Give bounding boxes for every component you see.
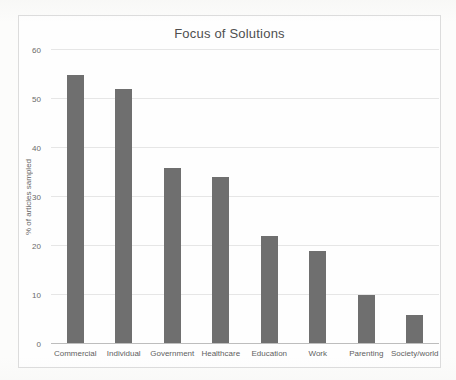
x-tick-label-government: Government — [148, 349, 197, 358]
plot-area — [51, 50, 439, 344]
y-tick-label-40: 40 — [32, 144, 41, 153]
x-axis-line — [51, 343, 439, 344]
x-tick-label-education: Education — [245, 349, 294, 358]
x-tick-label-work: Work — [294, 349, 343, 358]
x-axis-tick-labels: CommercialIndividualGovernmentHealthcare… — [51, 349, 439, 358]
bar-column-0 — [51, 50, 100, 344]
bar-column-5 — [294, 50, 343, 344]
x-tick-label-individual: Individual — [100, 349, 149, 358]
x-tick-label-commercial: Commercial — [51, 349, 100, 358]
bar-column-3 — [197, 50, 246, 344]
x-tick-label-parenting: Parenting — [342, 349, 391, 358]
bar-society-world — [406, 315, 423, 344]
bar-column-1 — [100, 50, 149, 344]
bar-column-7 — [391, 50, 440, 344]
bars-container — [51, 50, 439, 344]
y-tick-label-60: 60 — [32, 46, 41, 55]
bar-government — [164, 168, 181, 344]
bar-healthcare — [212, 177, 229, 344]
bar-education — [261, 236, 278, 344]
bar-column-4 — [245, 50, 294, 344]
bar-parenting — [358, 295, 375, 344]
bar-commercial — [67, 75, 84, 345]
chart-title: Focus of Solutions — [19, 26, 440, 41]
y-tick-label-0: 0 — [37, 340, 41, 349]
bar-individual — [115, 89, 132, 344]
bar-column-6 — [342, 50, 391, 344]
chart-frame: Focus of Solutions % of articles sampled… — [18, 15, 441, 368]
y-tick-label-20: 20 — [32, 242, 41, 251]
scanned-page: Focus of Solutions % of articles sampled… — [0, 0, 456, 380]
y-tick-label-30: 30 — [32, 193, 41, 202]
bar-column-2 — [148, 50, 197, 344]
x-tick-label-society-world: Society/world — [391, 349, 440, 358]
x-tick-label-healthcare: Healthcare — [197, 349, 246, 358]
y-tick-label-10: 10 — [32, 291, 41, 300]
bar-work — [309, 251, 326, 344]
y-axis-tick-labels: 0102030405060 — [19, 50, 46, 344]
y-tick-label-50: 50 — [32, 95, 41, 104]
